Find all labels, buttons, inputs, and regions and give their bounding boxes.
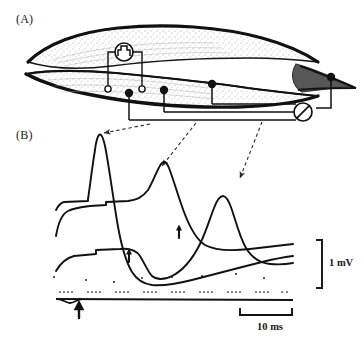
pointer-to-trace-1 [104, 124, 150, 133]
muscle-lower-belly [26, 71, 318, 107]
pointer-arrows [104, 122, 262, 178]
voltage-scale-label: 1 mV [329, 257, 353, 268]
stimulus-arrow [75, 302, 83, 318]
inflection-arrow-trace2 [176, 225, 182, 239]
figure-container: (A) (B) [0, 0, 362, 345]
stimulator[interactable] [115, 43, 133, 61]
panel-a-diagram [26, 26, 356, 121]
muscle-upper-belly [28, 26, 318, 68]
panel-b-traces [53, 134, 322, 318]
time-scale-label: 10 ms [257, 321, 283, 332]
baseline-trace [56, 299, 293, 300]
pointer-to-trace-3 [240, 122, 262, 178]
recording-electrode-1[interactable] [125, 89, 133, 120]
pointer-to-trace-2 [162, 123, 196, 166]
amplifier[interactable] [294, 103, 312, 121]
voltage-scale-bar [317, 240, 322, 288]
trace-1-proximal [56, 134, 293, 285]
time-scale-bar [240, 309, 292, 315]
muscle-tendon [293, 64, 356, 92]
trace-3-distal [56, 196, 293, 279]
